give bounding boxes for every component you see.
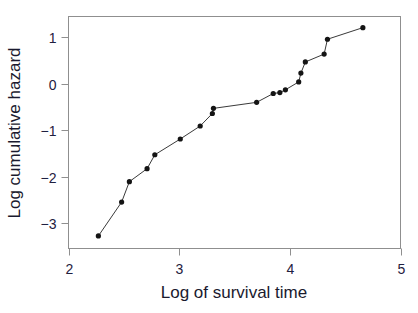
y-tick-label: 0 (49, 77, 57, 93)
data-point (277, 90, 282, 95)
x-tick-label: 3 (176, 261, 184, 277)
chart-canvas: 2345 10−1−2−3 Log of survival time Log c… (0, 0, 418, 313)
data-point (96, 233, 101, 238)
x-axis-title: Log of survival time (161, 283, 307, 302)
data-point (144, 166, 149, 171)
data-point (303, 59, 308, 64)
data-point (211, 106, 216, 111)
figure-background (0, 0, 418, 313)
data-point (152, 152, 157, 157)
x-tick-label: 2 (66, 261, 74, 277)
data-point (119, 200, 124, 205)
data-point (325, 37, 330, 42)
data-point (127, 179, 132, 184)
y-tick-label: 1 (49, 30, 57, 46)
data-point (271, 91, 276, 96)
data-point (298, 71, 303, 76)
data-point (254, 100, 259, 105)
y-tick-label: −3 (41, 216, 57, 232)
y-tick-label: −2 (41, 170, 57, 186)
y-axis-title: Log cumulative hazard (5, 47, 24, 218)
data-point (210, 111, 215, 116)
data-point (360, 25, 365, 30)
y-tick-label: −1 (41, 123, 57, 139)
data-point (322, 51, 327, 56)
x-tick-label: 4 (287, 261, 295, 277)
data-point (178, 136, 183, 141)
x-tick-label: 5 (398, 261, 406, 277)
data-point (283, 87, 288, 92)
data-point (198, 123, 203, 128)
data-point (296, 79, 301, 84)
chart-figure: 2345 10−1−2−3 Log of survival time Log c… (0, 0, 418, 313)
